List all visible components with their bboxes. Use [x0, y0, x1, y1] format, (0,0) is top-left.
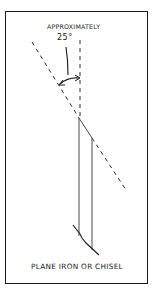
bevel-extension-line-upper — [32, 42, 79, 118]
angle-value-label: 25° — [57, 33, 73, 42]
bevel-extension-line-lower — [92, 138, 126, 190]
blade-break-line — [73, 225, 99, 255]
angle-leader-line — [66, 47, 68, 75]
blade-outline — [79, 118, 92, 250]
diagram-caption: PLANE IRON OR CHISEL — [0, 262, 154, 271]
blade-angle-drawing — [0, 0, 154, 293]
approximately-label: APPROXIMATELY — [47, 23, 100, 30]
